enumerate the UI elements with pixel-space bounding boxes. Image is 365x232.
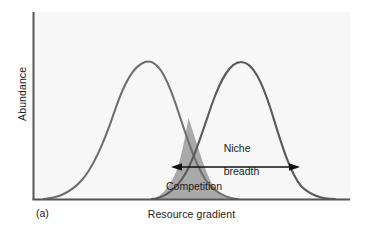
y-axis-label: Abundance (17, 49, 29, 139)
panel-label: (a) (36, 208, 49, 220)
plot-area (0, 0, 365, 232)
niche-breadth-label-line1: Niche (224, 142, 251, 154)
figure-panel: Abundance Resource gradient (a) Niche br… (0, 0, 365, 232)
niche-breadth-label-line2: breadth (224, 165, 260, 177)
x-axis-label: Resource gradient (33, 209, 350, 221)
competition-label: Competition (166, 181, 222, 193)
